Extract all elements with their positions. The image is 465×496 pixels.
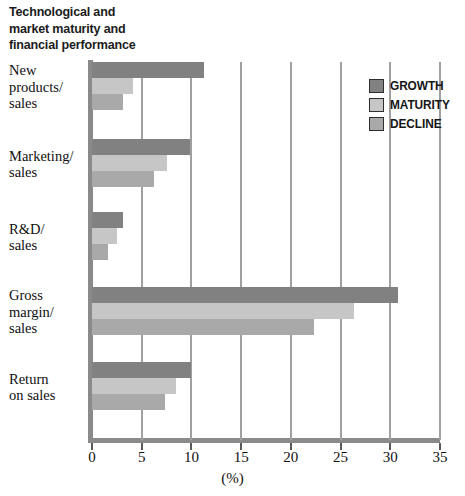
x-axis-title: (%) [0, 470, 465, 487]
bar-growth [92, 287, 398, 303]
x-tick-label: 25 [321, 449, 361, 466]
bar-decline [92, 171, 154, 187]
bar-decline [92, 94, 123, 110]
category-label: Marketing/ sales [9, 148, 89, 181]
bar-maturity [92, 155, 167, 171]
category-label: R&D/ sales [9, 221, 89, 254]
legend-swatch-growth [369, 79, 384, 93]
legend-item: GROWTH [369, 76, 453, 95]
category-label: New products/ sales [9, 62, 89, 112]
category-label: Gross margin/ sales [9, 287, 89, 337]
legend-swatch-maturity [369, 98, 384, 112]
x-tick-label: 5 [122, 449, 162, 466]
bar-maturity [92, 228, 117, 244]
category-label: Return on sales [9, 371, 89, 404]
legend-item: DECLINE [369, 114, 453, 133]
legend-swatch-decline [369, 117, 384, 131]
legend-label: GROWTH [390, 79, 444, 93]
bar-maturity [92, 303, 354, 319]
chart-page: Technological and market maturity and fi… [0, 0, 465, 496]
legend-label: MATURITY [390, 98, 450, 112]
bar-maturity [92, 378, 176, 394]
chart-title: Technological and market maturity and fi… [9, 4, 223, 54]
gridline [240, 62, 242, 440]
bar-decline [92, 244, 108, 260]
bar-decline [92, 319, 314, 335]
gridline [290, 62, 292, 440]
x-tick-label: 35 [420, 449, 460, 466]
gridline [190, 62, 192, 440]
bar-growth [92, 139, 190, 155]
bar-growth [92, 362, 191, 378]
bar-growth [92, 212, 123, 228]
x-tick-label: 15 [221, 449, 261, 466]
legend-item: MATURITY [369, 95, 453, 114]
x-tick-label: 30 [370, 449, 410, 466]
x-tick-label: 20 [271, 449, 311, 466]
x-tick-label: 0 [72, 449, 112, 466]
bar-growth [92, 62, 204, 78]
chart-legend: GROWTHMATURITYDECLINE [369, 76, 453, 133]
bar-maturity [92, 78, 133, 94]
gridline [340, 62, 342, 440]
bar-decline [92, 394, 165, 410]
legend-label: DECLINE [390, 117, 441, 131]
x-tick-label: 10 [171, 449, 211, 466]
